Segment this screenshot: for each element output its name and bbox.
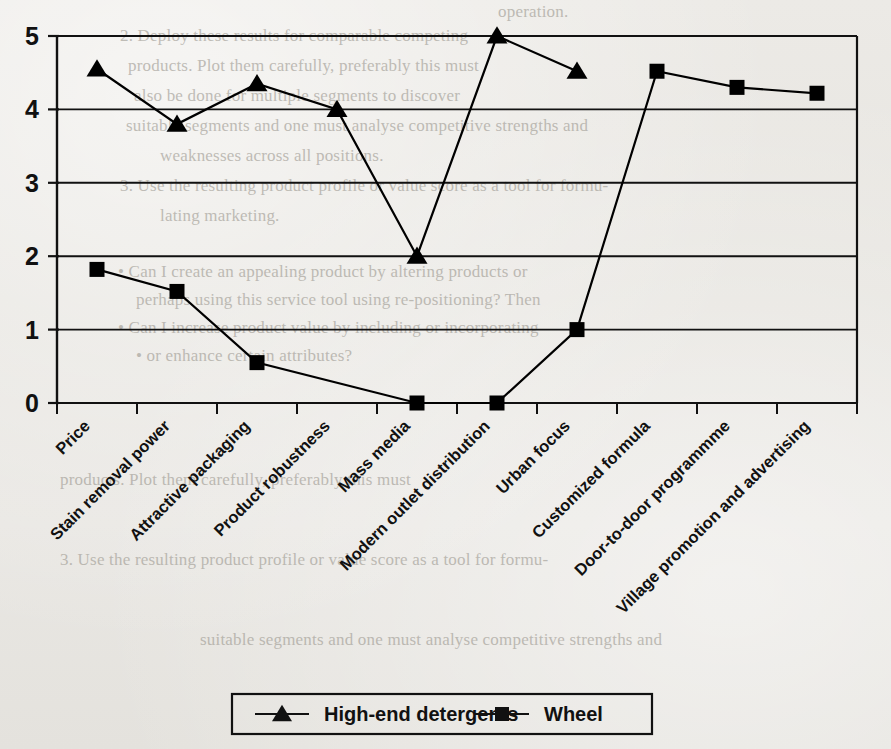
series-line-2 <box>97 71 817 403</box>
data-point-square <box>490 396 505 411</box>
data-point-triangle <box>407 247 428 264</box>
data-point-square <box>570 322 585 337</box>
y-axis-tick-label: 4 <box>25 95 39 123</box>
data-point-square <box>810 86 825 101</box>
data-point-square <box>90 262 105 277</box>
data-point-square <box>170 284 185 299</box>
data-point-square <box>730 80 745 95</box>
x-axis-ticks <box>57 403 857 414</box>
data-point-square <box>650 64 665 79</box>
data-point-triangle <box>567 62 588 79</box>
data-point-square <box>410 396 425 411</box>
x-axis-category-label: Modern outlet distribution <box>336 416 493 573</box>
chart-canvas: 012345 PriceStain removal powerAttractiv… <box>0 0 891 749</box>
y-axis-tick-label: 0 <box>25 389 39 417</box>
data-point-triangle <box>327 100 348 117</box>
y-axis-tick-labels: 012345 <box>25 22 39 417</box>
y-axis-tick-label: 5 <box>25 22 39 50</box>
y-axis-tick-label: 1 <box>25 316 39 344</box>
data-point-triangle <box>167 114 188 131</box>
data-point-triangle <box>87 59 108 76</box>
y-axis-tick-label: 2 <box>25 242 39 270</box>
x-axis-category-label: Price <box>52 416 93 457</box>
chart-legend[interactable]: High-end detergentsWheel <box>232 694 652 734</box>
line-chart: 012345 PriceStain removal powerAttractiv… <box>0 0 891 749</box>
legend-marker-square <box>495 707 509 721</box>
x-axis-category-label: Urban focus <box>492 416 573 497</box>
series-markers-group <box>87 26 825 410</box>
y-axis-tick-label: 3 <box>25 169 39 197</box>
x-axis-category-labels: PriceStain removal powerAttractive packa… <box>46 416 813 617</box>
x-axis-category-label: Door-to-door programmme <box>571 416 733 578</box>
series-line-1 <box>97 36 577 256</box>
data-point-triangle <box>247 74 268 91</box>
data-point-square <box>250 355 265 370</box>
legend-label-2[interactable]: Wheel <box>544 703 603 725</box>
x-axis-category-label: Mass media <box>334 416 413 495</box>
series-lines-group <box>97 36 817 403</box>
